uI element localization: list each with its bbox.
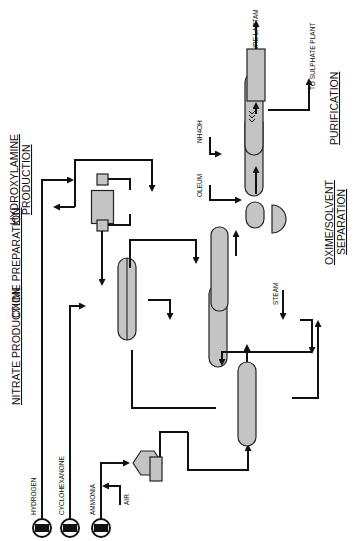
process-flow-diagram: NITRATE PRODUCTION OXIME PREPARATION HYD… [0,0,354,541]
section-label-separation-2: SEPARATION [335,189,347,255]
hydroxylamine-loop-top [108,179,130,190]
section-label-separation-1: OXIME/SOLVENT [323,179,335,265]
start-icon-ammonia [92,519,110,537]
rearrangement-reactor [246,202,264,228]
start-icon-hydrogen [33,519,51,537]
absorber-column [238,362,256,446]
start-icon-cyclohexanone [61,519,79,537]
bottom-recycle [132,350,216,408]
hydroxylamine-vessel-top [97,174,108,185]
section-label-purification: PURIFICATION [328,72,340,145]
feed-label-ammonia: AMMONIA [89,483,96,515]
rearrangement-jacket [272,205,286,233]
crossover-line [222,352,312,364]
purification-final-box [247,49,265,101]
feed-label-oleum: OLEUM [196,174,203,197]
feed-label-hydrogen: HYDROGEN [30,477,37,515]
air-line [104,486,120,505]
sulphate-outlet [268,80,309,110]
hydroxylamine-column [92,191,114,224]
converter-tail [150,457,162,481]
nh4oh-line [210,137,220,154]
feed-label-nh4oh: NH4OH [196,120,203,143]
hydrogen-line [42,180,72,519]
vessel-stripper [211,227,228,311]
ammonia-line [101,463,128,519]
converter-outlet [160,432,188,457]
oxime-to-stripper [148,300,170,318]
return-line [292,322,318,398]
stripper-to-vessel [300,320,312,352]
hydroxylamine-vessel-bottom [97,220,108,231]
section-label-hydroxylamine-1: HYDROXYLAMINE [8,134,20,225]
oxime-to-separator [130,240,196,268]
cyclohexanone-line [70,306,84,519]
oleum-line [210,185,240,200]
feed-label-steam: STEAM [272,283,279,305]
section-label-hydroxylamine-2: PRODUCTION [20,144,32,215]
output-label-sulphate: TO SULPHATE PLANT [309,23,316,90]
feed-label-cyclohexanone: CYCLOHEXANONE [58,455,65,515]
feed-label-air: AIR [123,494,130,505]
